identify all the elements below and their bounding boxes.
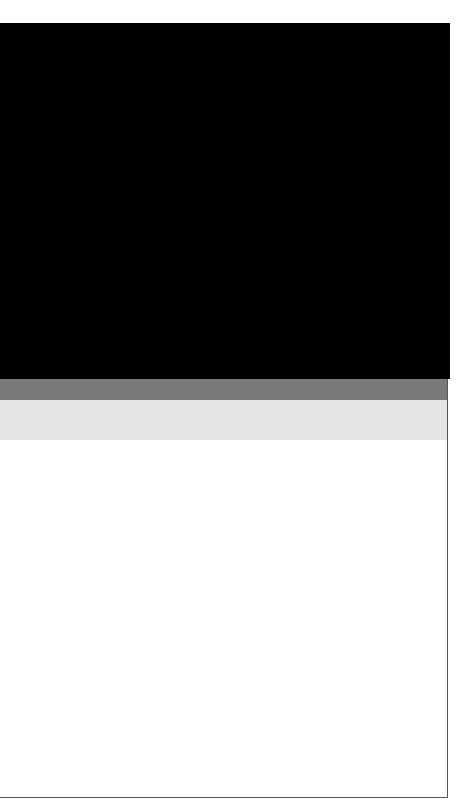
light-gray-bar [0, 400, 447, 440]
media-panel [0, 23, 450, 379]
window-frame [0, 23, 448, 798]
empty-content-area [0, 440, 447, 796]
dark-gray-bar [0, 379, 447, 400]
